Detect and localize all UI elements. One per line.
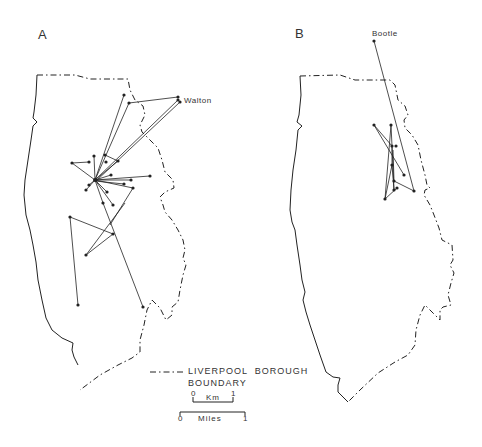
panel-a-map: [24, 75, 186, 390]
panel-a-label: A: [38, 27, 47, 42]
walton-label: Walton: [184, 96, 212, 105]
km-zero: 0: [191, 389, 196, 398]
legend-line-1: LIVERPOOL BOROUGH: [188, 365, 308, 377]
miles-label: Miles: [198, 414, 222, 423]
boundary-b: [300, 75, 454, 402]
coastline-b: [290, 76, 348, 402]
panel-b-map: [290, 39, 454, 402]
km-one: 1: [231, 389, 236, 398]
km-label: Km: [206, 393, 220, 402]
journey-lines-a: [70, 95, 180, 307]
legend-line-2: BOUNDARY: [188, 377, 247, 389]
miles-zero: 0: [178, 414, 183, 423]
journey-lines-b: [374, 41, 414, 199]
boundary-a: [37, 75, 186, 390]
panel-b-label: B: [295, 26, 304, 41]
bootle-label: Bootle: [372, 29, 398, 38]
miles-one: 1: [243, 414, 248, 423]
